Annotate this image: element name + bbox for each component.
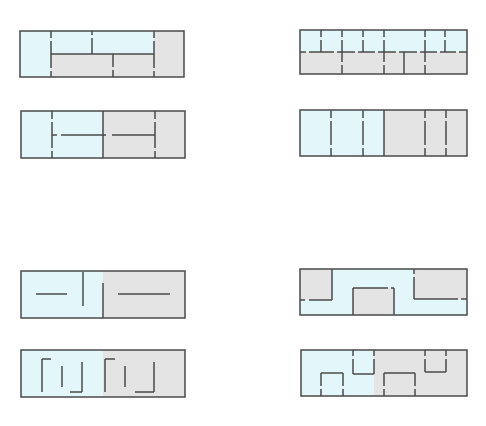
gray-zone xyxy=(414,269,467,299)
diagram-3-room-layout xyxy=(300,30,467,74)
diagram-4-room-layout xyxy=(300,110,467,156)
floor-plan-diagrams-canvas xyxy=(0,0,486,426)
gray-zone xyxy=(154,31,184,77)
diagram-6-room-layout xyxy=(21,350,185,397)
diagram-5-room-layout xyxy=(21,271,185,318)
diagram-7-room-layout xyxy=(300,269,467,315)
blue-zone xyxy=(20,31,51,77)
gray-zone xyxy=(300,269,332,300)
gray-zone xyxy=(103,350,185,397)
gray-zone xyxy=(51,54,154,77)
diagram-1-room-layout xyxy=(20,31,184,77)
blue-zone xyxy=(300,110,384,156)
diagram-8-room-layout xyxy=(301,350,467,396)
gray-zone xyxy=(353,288,394,315)
diagram-2-room-layout xyxy=(21,111,185,158)
blue-zone xyxy=(51,31,154,54)
